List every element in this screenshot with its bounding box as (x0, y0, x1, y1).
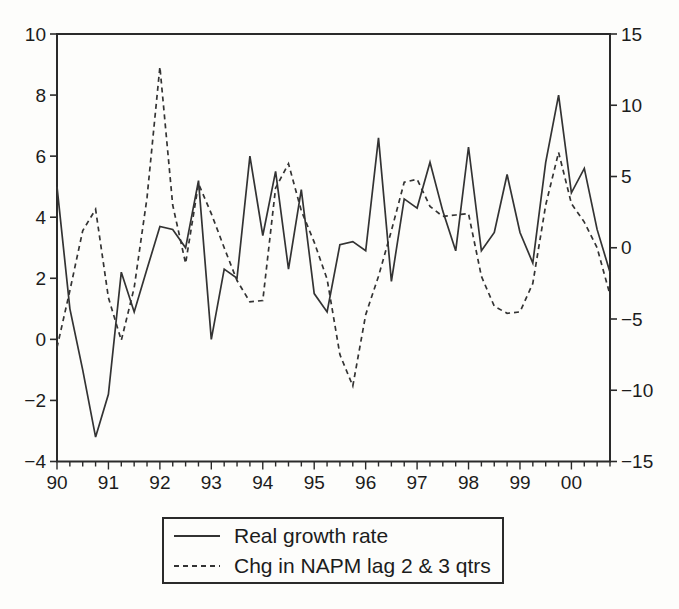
left-axis-tick-label: 8 (35, 85, 46, 106)
napm-change-line (57, 67, 610, 386)
right-axis-tick-label: 5 (621, 166, 632, 187)
legend-label-real-growth: Real growth rate (234, 524, 388, 548)
dashed-line-sample-icon (174, 563, 220, 569)
x-axis-year-label: 97 (407, 472, 428, 493)
chart-canvas: 1086420−2−4151050−5−10−15909192939495969… (0, 0, 679, 505)
x-axis-year-label: 96 (355, 472, 376, 493)
x-axis-year-label: 91 (98, 472, 119, 493)
x-axis-year-label: 95 (304, 472, 325, 493)
x-axis-year-label: 94 (252, 472, 274, 493)
left-axis-tick-label: −2 (24, 390, 46, 411)
right-axis-tick-label: −5 (621, 309, 643, 330)
x-axis-year-label: 98 (458, 472, 479, 493)
right-axis-tick-label: 10 (621, 95, 642, 116)
right-axis-tick-label: 15 (621, 24, 642, 45)
legend-row-napm: Chg in NAPM lag 2 & 3 qtrs (174, 553, 502, 579)
legend: Real growth rate Chg in NAPM lag 2 & 3 q… (162, 517, 504, 584)
left-axis-tick-label: 10 (25, 24, 46, 45)
chart-figure: 1086420−2−4151050−5−10−15909192939495969… (0, 0, 679, 609)
left-axis-tick-label: −4 (24, 451, 46, 472)
left-axis-tick-label: 2 (35, 268, 46, 289)
x-axis-year-label: 90 (46, 472, 67, 493)
left-axis-tick-label: 6 (35, 146, 46, 167)
x-axis-year-label: 92 (149, 472, 170, 493)
legend-row-real-growth: Real growth rate (174, 523, 502, 549)
legend-label-napm: Chg in NAPM lag 2 & 3 qtrs (234, 554, 491, 578)
right-axis-tick-label: 0 (621, 237, 632, 258)
left-axis-tick-label: 0 (35, 329, 46, 350)
real-growth-rate-line (57, 95, 610, 437)
left-axis-tick-label: 4 (35, 207, 46, 228)
x-axis-year-label: 93 (201, 472, 222, 493)
x-axis-year-label: 00 (561, 472, 582, 493)
x-axis-year-label: 99 (509, 472, 530, 493)
right-axis-tick-label: −15 (621, 451, 653, 472)
solid-line-sample-icon (174, 533, 220, 539)
right-axis-tick-label: −10 (621, 380, 653, 401)
